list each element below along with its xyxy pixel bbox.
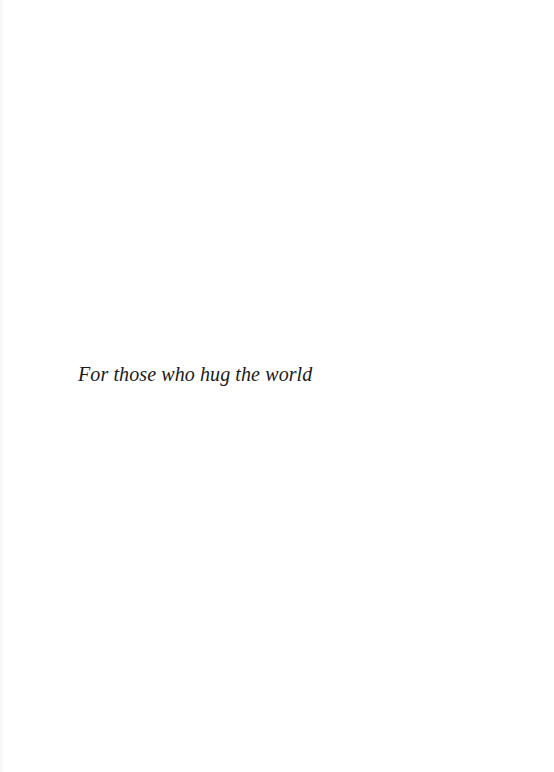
page-edge-shadow (0, 0, 6, 772)
dedication-text: For those who hug the world (78, 362, 312, 386)
book-page: For those who hug the world (0, 0, 554, 772)
